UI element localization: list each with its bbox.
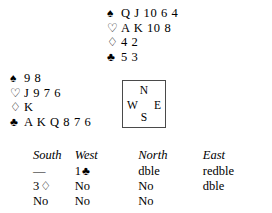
bid-north: No bbox=[138, 194, 203, 209]
spade-icon: ♠ bbox=[10, 71, 22, 86]
compass-box: N W E S bbox=[122, 80, 166, 128]
bid-east: dble bbox=[203, 179, 272, 194]
bid-west: 1♣ bbox=[75, 164, 139, 179]
bidding-table: South West North East — 1♣ dble redble 3… bbox=[0, 148, 272, 209]
west-spades-row: ♠ 9 8 bbox=[10, 71, 91, 86]
compass-north-label: N bbox=[123, 85, 165, 97]
diamond-icon: ♢ bbox=[39, 179, 51, 193]
bid-north-suit-icon bbox=[154, 179, 155, 193]
bridge-deal-diagram: ♠ Q J 10 6 4 ♡ A K 10 8 ♢ 4 2 ♣ 5 3 ♠ 9 … bbox=[0, 0, 272, 213]
bid-east-suit-icon bbox=[234, 164, 235, 178]
west-hand: ♠ 9 8 ♡ J 9 7 6 ♢ K ♣ A K Q 8 7 6 bbox=[10, 71, 91, 129]
compass-south-label: S bbox=[123, 112, 165, 124]
north-diamonds-cards: 4 2 bbox=[119, 35, 138, 50]
bid-south: No bbox=[0, 194, 75, 209]
north-clubs-row: ♣ 5 3 bbox=[107, 50, 178, 65]
bid-south: — bbox=[0, 164, 75, 179]
west-clubs-cards: A K Q 8 7 6 bbox=[22, 115, 91, 130]
bidding-header-row: South West North East bbox=[0, 148, 272, 164]
bid-west-call: No bbox=[75, 194, 90, 208]
bid-east-call: dble bbox=[203, 179, 225, 193]
bid-north-call: No bbox=[138, 179, 153, 193]
bid-south-call: No bbox=[33, 194, 48, 208]
bid-west-suit-icon bbox=[90, 194, 91, 208]
west-diamonds-row: ♢ K bbox=[10, 100, 91, 115]
north-hand: ♠ Q J 10 6 4 ♡ A K 10 8 ♢ 4 2 ♣ 5 3 bbox=[107, 6, 178, 64]
bidding-col-header-south: South bbox=[0, 148, 75, 164]
bid-west-suit-icon bbox=[90, 179, 91, 193]
heart-icon: ♡ bbox=[107, 21, 119, 36]
bid-west: No bbox=[75, 194, 139, 209]
bid-south-suit-icon bbox=[46, 164, 47, 178]
bidding-row: 3♢ No No dble bbox=[0, 179, 272, 194]
bidding-col-header-east: East bbox=[203, 148, 272, 164]
bidding-col-header-north: North bbox=[138, 148, 203, 164]
bid-south: 3♢ bbox=[0, 179, 75, 194]
west-clubs-row: ♣ A K Q 8 7 6 bbox=[10, 115, 91, 130]
bidding-col-header-west: West bbox=[75, 148, 139, 164]
bid-east: redble bbox=[203, 164, 272, 179]
diamond-icon: ♢ bbox=[107, 35, 119, 50]
north-diamonds-row: ♢ 4 2 bbox=[107, 35, 178, 50]
compass-east-label: E bbox=[154, 100, 161, 112]
bidding-row: — 1♣ dble redble bbox=[0, 164, 272, 179]
compass-west-label: W bbox=[127, 100, 138, 112]
bid-north-call: dble bbox=[138, 164, 160, 178]
bid-east-suit-icon bbox=[224, 179, 225, 193]
north-spades-row: ♠ Q J 10 6 4 bbox=[107, 6, 178, 21]
west-hearts-cards: J 9 7 6 bbox=[22, 86, 61, 101]
bidding-row: No No No bbox=[0, 194, 272, 209]
west-diamonds-cards: K bbox=[22, 100, 34, 115]
bid-east-call: redble bbox=[203, 164, 234, 178]
bid-south-call: — bbox=[33, 164, 46, 178]
club-icon: ♣ bbox=[107, 50, 119, 65]
club-icon: ♣ bbox=[81, 164, 90, 178]
bid-north-suit-icon bbox=[160, 164, 161, 178]
diamond-icon: ♢ bbox=[10, 100, 22, 115]
bid-north: dble bbox=[138, 164, 203, 179]
bid-north: No bbox=[138, 179, 203, 194]
bid-north-suit-icon bbox=[154, 194, 155, 208]
north-hearts-row: ♡ A K 10 8 bbox=[107, 21, 178, 36]
north-clubs-cards: 5 3 bbox=[119, 50, 138, 65]
bid-north-call: No bbox=[138, 194, 153, 208]
bid-west-call: No bbox=[75, 179, 90, 193]
spade-icon: ♠ bbox=[107, 6, 119, 21]
bid-west: No bbox=[75, 179, 139, 194]
bid-east-suit-icon bbox=[203, 194, 204, 208]
north-hearts-cards: A K 10 8 bbox=[119, 21, 171, 36]
club-icon: ♣ bbox=[10, 115, 22, 130]
bid-east bbox=[203, 194, 272, 209]
west-hearts-row: ♡ J 9 7 6 bbox=[10, 86, 91, 101]
west-spades-cards: 9 8 bbox=[22, 71, 41, 86]
bid-west-call: 1 bbox=[75, 164, 81, 178]
bid-south-suit-icon bbox=[48, 194, 49, 208]
heart-icon: ♡ bbox=[10, 86, 22, 101]
north-spades-cards: Q J 10 6 4 bbox=[119, 6, 178, 21]
